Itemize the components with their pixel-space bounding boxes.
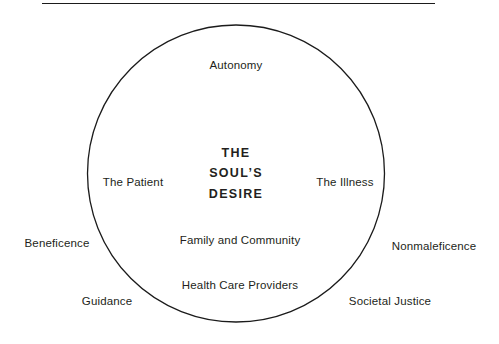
center-title-line-2: SOUL’S bbox=[209, 163, 263, 183]
label-family-and-community: Family and Community bbox=[180, 233, 301, 247]
center-title-line-1: THE bbox=[209, 143, 263, 163]
label-beneficence: Beneficence bbox=[25, 236, 90, 250]
label-autonomy: Autonomy bbox=[210, 58, 263, 72]
label-guidance: Guidance bbox=[82, 294, 132, 308]
center-title-line-3: DESIRE bbox=[209, 183, 263, 203]
label-the-patient: The Patient bbox=[103, 175, 163, 189]
center-title: THE SOUL’S DESIRE bbox=[209, 143, 263, 204]
label-health-care-providers: Health Care Providers bbox=[182, 278, 298, 292]
label-societal-justice: Societal Justice bbox=[349, 294, 431, 308]
label-the-illness: The Illness bbox=[316, 175, 373, 189]
soul-desire-diagram: THE SOUL’S DESIRE Autonomy The Patient T… bbox=[0, 0, 499, 344]
label-nonmaleficence: Nonmaleficence bbox=[392, 239, 477, 253]
